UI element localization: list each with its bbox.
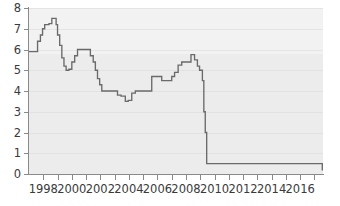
y-tick-label: 5: [14, 63, 21, 77]
x-tick-label: 2006: [143, 182, 172, 196]
y-tick-label: 8: [14, 1, 21, 15]
y-tick-label: 3: [14, 105, 21, 119]
y-tick-label: 2: [14, 126, 21, 140]
x-tick-label: 2014: [257, 182, 286, 196]
y-tick-marks: [24, 9, 29, 175]
x-tick-label: 2010: [200, 182, 229, 196]
x-tick-label: 2004: [114, 182, 143, 196]
y-tick-label: 0: [14, 167, 21, 181]
x-tick-label: 2000: [57, 182, 86, 196]
x-tick-label: 2002: [86, 182, 115, 196]
y-tick-label: 6: [14, 43, 21, 57]
x-tick-marks: [44, 175, 315, 181]
x-axis-tick-labels: 1998200020022004200620082010201220142016: [29, 182, 315, 196]
y-tick-label: 7: [14, 22, 21, 36]
line-chart: 012345678 199820002002200420062008201020…: [0, 0, 340, 206]
x-tick-label: 2008: [171, 182, 200, 196]
x-tick-label: 2016: [286, 182, 315, 196]
y-tick-label: 4: [14, 84, 21, 98]
chart-container: 012345678 199820002002200420062008201020…: [0, 0, 340, 206]
plot-background-wash: [29, 8, 323, 54]
x-tick-label: 2012: [228, 182, 257, 196]
y-tick-label: 1: [14, 146, 21, 160]
y-axis-tick-labels: 012345678: [14, 1, 21, 181]
x-tick-label: 1998: [29, 182, 58, 196]
